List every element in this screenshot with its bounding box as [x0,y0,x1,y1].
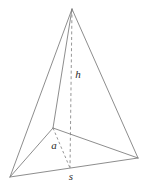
side-label: s [69,170,73,182]
apothem-label: a [51,139,57,151]
base-edge-front [10,158,138,177]
pyramid-diagram: Triangular pyramid with height, apothem … [0,0,145,188]
pyramid-svg-canvas: Triangular pyramid with height, apothem … [0,0,145,188]
height-label: h [75,68,81,80]
